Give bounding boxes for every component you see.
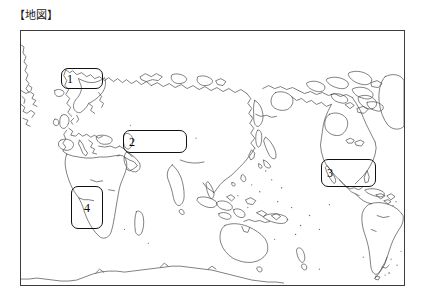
map-frame: 1 2 3 4 — [20, 30, 405, 286]
region-box-3[interactable]: 3 — [321, 159, 376, 187]
map-question-page: 【地図】 — [0, 0, 423, 308]
region-box-2[interactable]: 2 — [123, 130, 187, 153]
region-label-1: 1 — [65, 73, 73, 85]
page-title: 【地図】 — [14, 9, 58, 22]
region-label-2: 2 — [127, 136, 135, 148]
region-box-1[interactable]: 1 — [61, 68, 103, 89]
region-box-4[interactable]: 4 — [71, 186, 103, 229]
region-label-4: 4 — [72, 202, 102, 214]
region-label-3: 3 — [325, 167, 333, 179]
